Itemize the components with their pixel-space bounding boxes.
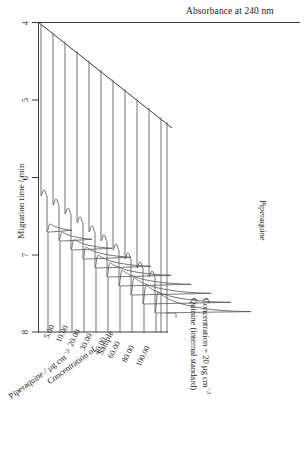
annotation-quinine-concentration: Concentration = 20 µg cm−3 xyxy=(201,298,212,394)
trace-4 xyxy=(77,52,131,333)
y-axis-title: Migration time / min xyxy=(16,158,26,244)
quinine-leader-line xyxy=(166,313,176,318)
trace-group xyxy=(38,22,251,332)
y-tick-label-4: 4 xyxy=(20,17,30,29)
trace-3 xyxy=(65,42,112,332)
trace-9 xyxy=(137,99,231,332)
y-axis-ticks xyxy=(32,23,39,333)
annotation-quinine-title: Quinine (internal standard) xyxy=(189,298,199,390)
y-tick-label-8: 8 xyxy=(20,326,30,338)
y-tick-label-5: 5 xyxy=(20,94,30,106)
trace-1 xyxy=(41,24,72,332)
trace-2 xyxy=(53,33,92,332)
ridge-line xyxy=(38,22,172,128)
y-tick-label-7: 7 xyxy=(20,249,30,261)
y-tick-label-6: 6 xyxy=(20,172,30,184)
chart-title: Absorbance at 240 nm xyxy=(186,6,274,16)
annotation-piperaquine: Piperaquine xyxy=(258,200,268,241)
figure-canvas: .ax { stroke:#3a3a3a; stroke-width:1; fi… xyxy=(0,0,307,451)
trace-10 xyxy=(149,109,251,333)
annotation-quinine-concentration-sup: −3 xyxy=(206,387,212,394)
annotation-quinine-concentration-text: Concentration = 20 µg cm xyxy=(201,298,211,387)
